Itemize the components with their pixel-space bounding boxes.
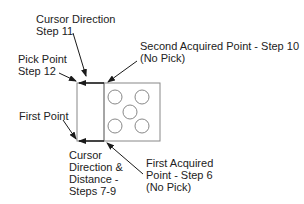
label-line: Pick Point [18,53,67,65]
direction-arrows [79,83,104,141]
label-line: First Acquired [146,157,213,169]
label-line: Cursor [69,149,123,161]
label-line: Direction & [69,161,123,173]
cursor-distance-label: Cursor Direction & Distance - Steps 7-9 [69,149,123,197]
second-acquired-label: Second Acquired Point - Step 10 (No Pick… [140,40,299,64]
label-line: Step 11 [36,25,115,37]
first-point-label: First Point [19,110,69,122]
label-line: (No Pick) [140,52,299,64]
left-rectangle [77,83,104,141]
label-line: Step 12 [18,65,67,77]
label-line: (No Pick) [146,181,213,193]
pick-point-label: Pick Point Step 12 [18,53,67,77]
label-line: Distance - [69,173,123,185]
label-line: Cursor Direction [36,13,115,25]
label-line: Second Acquired Point - Step 10 [140,40,299,52]
hole-circles [108,90,149,133]
cursor-direction-label: Cursor Direction Step 11 [36,13,115,37]
label-line: First Point [19,110,69,122]
first-acquired-label: First Acquired Point - Step 6 (No Pick) [146,157,213,193]
label-line: Steps 7-9 [69,185,123,197]
label-line: Point - Step 6 [146,169,213,181]
